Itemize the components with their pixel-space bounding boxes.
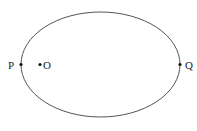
point-q-label: Q	[185, 59, 193, 71]
point-o-label: O	[43, 59, 51, 71]
point-q-dot	[178, 63, 181, 66]
point-p-label: P	[8, 59, 14, 71]
ellipse-diagram: P O Q	[0, 0, 197, 131]
point-p-dot	[19, 63, 22, 66]
point-o-dot	[38, 63, 41, 66]
